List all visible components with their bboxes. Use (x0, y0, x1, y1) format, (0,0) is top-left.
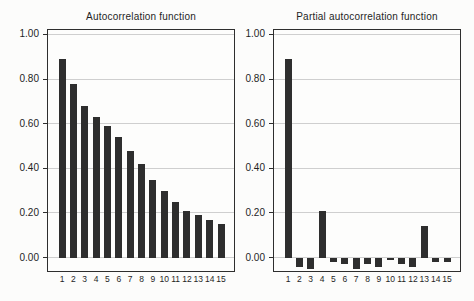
gridline (274, 123, 460, 124)
bar-lag-2 (296, 258, 303, 267)
pacf-x-axis: 123456789101112131415 (273, 272, 461, 286)
x-tick-label: 15 (211, 274, 231, 284)
gridline (274, 168, 460, 169)
bar-lag-13 (195, 215, 202, 257)
bar-lag-10 (161, 191, 168, 258)
acf-pacf-figure: Autocorrelation function 0.000.200.400.6… (0, 0, 474, 301)
acf-x-axis: 123456789101112131415 (47, 272, 235, 286)
bar-lag-11 (172, 202, 179, 258)
bar-lag-7 (127, 151, 134, 258)
bar-lag-5 (104, 126, 111, 258)
y-tick-label: 0.20 (246, 207, 265, 219)
y-tick-label: 0.60 (20, 118, 39, 130)
bar-lag-9 (375, 258, 382, 267)
y-tick-label: 0.40 (246, 162, 265, 174)
y-tick-label: 0.40 (20, 162, 39, 174)
gridline (274, 212, 460, 213)
gridline (48, 34, 234, 35)
panel-pacf: Partial autocorrelation function 0.000.2… (234, 8, 461, 286)
pacf-plot-area (273, 29, 461, 272)
bar-lag-12 (409, 258, 416, 267)
pacf-y-axis: 0.000.200.400.600.801.00 (234, 29, 273, 272)
bar-lag-1 (285, 59, 292, 258)
bar-lag-5 (330, 258, 337, 262)
bar-lag-6 (115, 137, 122, 258)
bar-lag-15 (444, 258, 451, 262)
acf-y-axis: 0.000.200.400.600.801.00 (8, 29, 47, 272)
y-tick-label: 0.60 (246, 118, 265, 130)
y-tick-label: 0.20 (20, 207, 39, 219)
bar-lag-1 (59, 59, 66, 258)
bar-lag-4 (319, 211, 326, 258)
y-tick-label: 0.80 (20, 73, 39, 85)
x-tick-label: 15 (437, 274, 457, 284)
bar-lag-8 (364, 258, 371, 265)
acf-plot-row: 0.000.200.400.600.801.00 (8, 29, 235, 272)
y-tick-label: 0.80 (246, 73, 265, 85)
pacf-plot-row: 0.000.200.400.600.801.00 (234, 29, 461, 272)
gridline (274, 34, 460, 35)
panel-acf: Autocorrelation function 0.000.200.400.6… (8, 8, 235, 286)
y-tick-label: 0.00 (246, 252, 265, 264)
gridline (274, 79, 460, 80)
bar-lag-9 (149, 180, 156, 258)
gridline (48, 79, 234, 80)
pacf-chart-title: Partial autocorrelation function (273, 8, 461, 29)
y-tick-label: 1.00 (246, 28, 265, 40)
bar-lag-3 (307, 258, 314, 269)
bar-lag-3 (81, 106, 88, 258)
y-tick-label: 0.00 (20, 252, 39, 264)
bar-lag-10 (387, 258, 394, 260)
bar-lag-15 (218, 224, 225, 257)
bar-lag-6 (341, 258, 348, 265)
bar-lag-14 (432, 258, 439, 262)
bar-lag-11 (398, 258, 405, 265)
acf-chart-title: Autocorrelation function (47, 8, 235, 29)
bar-lag-7 (353, 258, 360, 269)
bar-lag-12 (183, 211, 190, 258)
acf-plot-area (47, 29, 235, 272)
bar-lag-8 (138, 164, 145, 258)
bar-lag-4 (93, 117, 100, 258)
y-tick-label: 1.00 (20, 28, 39, 40)
bar-lag-2 (70, 84, 77, 258)
bar-lag-13 (421, 226, 428, 257)
bar-lag-14 (206, 220, 213, 258)
